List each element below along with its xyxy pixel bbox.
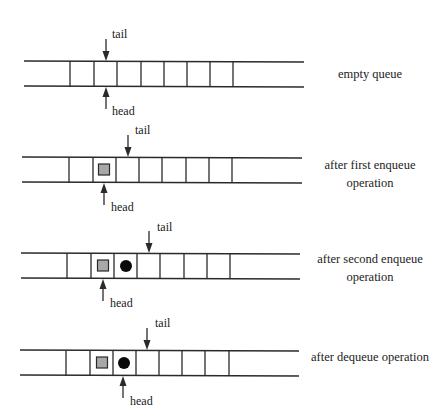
queue-row-first-enqueue: tailheadafter first enqueueoperation (22, 123, 416, 214)
queue-row-empty: tailheadempty queue (24, 27, 403, 118)
head-label: head (110, 296, 133, 310)
row-caption-line: operation (346, 176, 394, 190)
tail-arrow-head-icon (144, 340, 151, 350)
head-arrow-head-icon (101, 183, 108, 193)
row-caption-line: after dequeue operation (311, 350, 430, 364)
row-caption-line: after second enqueue (317, 252, 423, 266)
row-caption: after second enqueueoperation (317, 252, 423, 284)
tail-label: tail (155, 316, 171, 330)
head-label: head (130, 394, 153, 408)
tail-label: tail (112, 27, 128, 41)
row-caption-line: empty queue (338, 67, 403, 81)
queue-element-circle (118, 357, 130, 369)
queue-element-square (97, 357, 108, 368)
tail-label: tail (157, 220, 173, 234)
queue-diagram: tailheadempty queuetailheadafter first e… (0, 0, 439, 418)
head-label: head (112, 104, 135, 118)
row-caption: empty queue (338, 67, 403, 81)
row-caption: after first enqueueoperation (325, 158, 416, 190)
tail-label: tail (135, 123, 151, 137)
row-caption-line: after first enqueue (325, 158, 416, 172)
queue-diagram-canvas: tailheadempty queuetailheadafter first e… (0, 0, 439, 418)
queue-row-second-enqueue: tailheadafter second enqueueoperation (21, 220, 423, 310)
queue-element-circle (120, 260, 132, 272)
queue-element-square (99, 164, 110, 175)
tail-arrow-head-icon (103, 51, 110, 61)
head-arrow-head-icon (103, 87, 110, 97)
queue-element-square (98, 260, 109, 271)
row-caption-line: operation (346, 270, 394, 284)
head-arrow-head-icon (120, 376, 127, 386)
queue-row-dequeue: tailheadafter dequeue operation (20, 316, 430, 408)
tail-arrow-head-icon (146, 243, 153, 253)
tail-arrow-head-icon (125, 147, 132, 157)
row-caption: after dequeue operation (311, 350, 430, 364)
head-label: head (111, 200, 134, 214)
head-arrow-head-icon (100, 279, 107, 289)
